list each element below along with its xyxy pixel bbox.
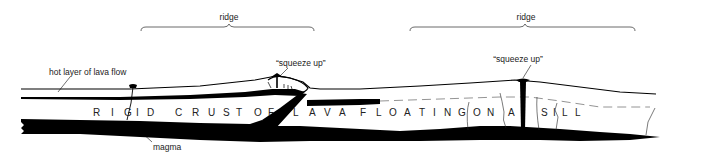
svg-text:L: L — [562, 107, 568, 118]
svg-text:N: N — [487, 107, 494, 118]
svg-text:R: R — [192, 107, 199, 118]
crack — [291, 86, 292, 89]
svg-text:I: I — [553, 107, 556, 118]
svg-text:L: L — [293, 107, 299, 118]
ridge-label-left: ridge — [220, 12, 239, 22]
svg-text:N: N — [444, 107, 451, 118]
ridge-bracket-left — [141, 24, 314, 31]
svg-text:I: I — [111, 107, 114, 118]
magma-band — [21, 119, 660, 142]
svg-text:O: O — [389, 107, 397, 118]
svg-text:F: F — [268, 107, 274, 118]
svg-text:O: O — [254, 107, 262, 118]
crack — [268, 82, 271, 88]
svg-text:I: I — [433, 107, 436, 118]
svg-text:A: A — [339, 107, 346, 118]
svg-text:T: T — [419, 107, 425, 118]
svg-text:D: D — [147, 107, 154, 118]
hot-layer-leader — [58, 77, 70, 92]
crust-top-thick-left — [21, 89, 305, 100]
ridge-bracket-right — [410, 24, 635, 31]
svg-text:T: T — [236, 107, 242, 118]
svg-text:A: A — [508, 107, 515, 118]
squeeze-up-label-left: “squeeze up” — [276, 58, 326, 68]
hot-layer-label: hot layer of lava flow — [49, 67, 127, 77]
ridge-label-right: ridge — [517, 12, 536, 22]
squeeze-up-label-right: “squeeze up” — [493, 54, 543, 64]
squeeze-up-leader-right — [523, 65, 531, 78]
svg-text:L: L — [575, 107, 581, 118]
svg-text:A: A — [309, 107, 316, 118]
lava-cross-section-diagram: ridge ridge hot layer of lava flow “sque… — [0, 0, 704, 160]
magma-label: magma — [153, 142, 182, 152]
svg-text:G: G — [124, 107, 132, 118]
svg-text:F: F — [360, 107, 366, 118]
svg-text:S: S — [541, 107, 548, 118]
crust-top-dashed — [380, 97, 650, 107]
svg-text:C: C — [175, 107, 182, 118]
svg-text:G: G — [458, 107, 466, 118]
feeder-dike-right — [520, 81, 526, 130]
svg-text:S: S — [223, 107, 230, 118]
svg-text:V: V — [324, 107, 331, 118]
svg-text:I: I — [136, 107, 139, 118]
svg-text:O: O — [473, 107, 481, 118]
svg-text:R: R — [93, 107, 100, 118]
svg-text:A: A — [404, 107, 411, 118]
rigid-crust-label: R I G I D C R U S T O F L A V A F L O A … — [93, 107, 581, 118]
lava-surface-line — [21, 76, 656, 94]
svg-text:U: U — [208, 107, 215, 118]
svg-text:L: L — [376, 107, 382, 118]
crust-top-thick-right — [307, 99, 380, 106]
